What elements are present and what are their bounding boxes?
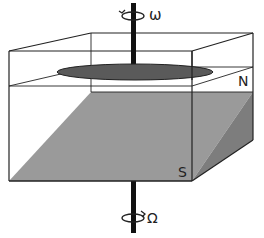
omega-label: ω bbox=[149, 6, 162, 24]
slope-bottom-face bbox=[9, 92, 253, 181]
big-omega-label: Ω bbox=[147, 210, 158, 226]
shaft bbox=[131, 181, 136, 233]
rotating-disk bbox=[57, 64, 213, 80]
south-label: S bbox=[178, 164, 187, 180]
upper-shaft bbox=[131, 3, 136, 73]
rotating-tank-diagram: ω Ω N S bbox=[0, 0, 264, 238]
north-label: N bbox=[238, 73, 248, 89]
